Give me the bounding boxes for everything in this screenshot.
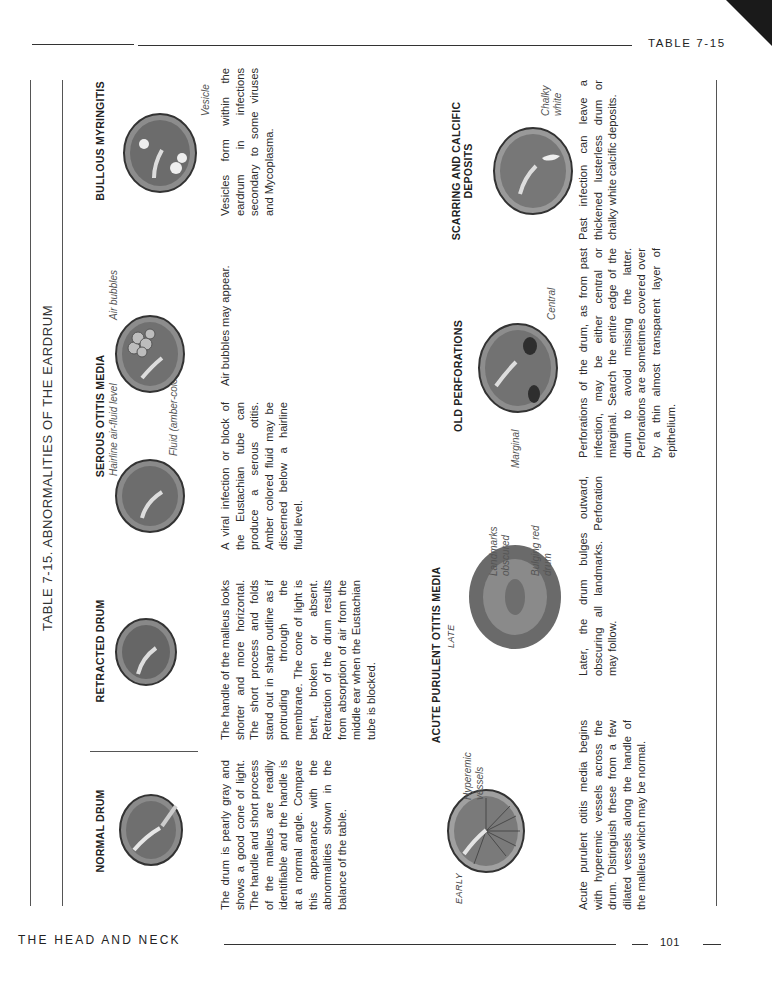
column-divider	[90, 751, 198, 752]
table-border-bottom	[716, 80, 717, 906]
stage-early: EARLY	[454, 873, 464, 904]
text-normal-drum: The drum is pearly gray and shows a good…	[218, 760, 349, 910]
table-border-top	[30, 80, 31, 906]
text-bullous-myringitis: Vesicles form within the eardrum in infe…	[218, 68, 276, 216]
text-acute-early: Acute purulent otitis media begins with …	[576, 720, 649, 910]
heading-acute-purulent-otitis-media: ACUTE PURULENT OTITIS MEDIA	[430, 550, 442, 760]
label-vesicle: Vesicle	[200, 84, 212, 116]
heading-normal-drum: NORMAL DRUM	[94, 776, 106, 886]
eardrum-illustration-retracted	[112, 616, 180, 688]
heading-serous-otitis-media: SEROUS OTITIS MEDIA	[94, 316, 106, 516]
eardrum-illustration-scarring	[490, 124, 576, 218]
label-bulging-red-drum: Bulging red drum	[530, 516, 554, 576]
text-old-perforations: Perforations of the drum, as from past i…	[576, 248, 678, 458]
label-hairline-fluid-level: Hairline air-fluid level	[108, 383, 120, 476]
eardrum-illustration-air-bubbles	[112, 312, 188, 396]
eardrum-illustration-serous-fluid	[112, 456, 188, 536]
title-rule	[62, 80, 63, 906]
label-chalky-white: Chalky white	[540, 70, 564, 116]
heading-scarring-calcific-deposits: SCARRING AND CALCIFIC DEPOSITS	[450, 86, 474, 256]
heading-retracted-drum: RETRACTED DRUM	[94, 586, 106, 716]
label-hyperemic-vessels: Hyperemic vessels	[462, 740, 486, 800]
text-serous-otitis-media: A viral infection or block of the Eustac…	[218, 402, 306, 550]
eardrum-illustration-normal	[116, 792, 186, 868]
text-air-bubbles: Air bubbles may appear.	[218, 246, 233, 386]
label-central: Central	[546, 288, 558, 320]
eardrum-table: TABLE 7-15. ABNORMALITIES OF THE EARDRUM…	[0, 0, 772, 996]
table-title: TABLE 7-15. ABNORMALITIES OF THE EARDRUM	[40, 305, 55, 631]
eardrum-illustration-perforations	[476, 320, 560, 416]
text-scarring-calcific-deposits: Past infection can leave a thickened lus…	[576, 80, 620, 240]
heading-old-perforations: OLD PERFORATIONS	[452, 296, 464, 456]
eardrum-illustration-early-acute	[444, 786, 528, 876]
label-landmarks-obscured: Landmarks obscured	[488, 516, 512, 576]
stage-late: LATE	[446, 624, 456, 648]
heading-bullous-myringitis: BULLOUS MYRINGITIS	[94, 66, 106, 216]
label-air-bubbles: Air bubbles	[108, 270, 120, 320]
label-marginal: Marginal	[510, 430, 522, 468]
text-retracted-drum: The handle of the malleus looks shorter …	[218, 580, 379, 740]
eardrum-illustration-bullous	[120, 110, 200, 196]
text-acute-late: Later, the drum bulges outward, obscurin…	[576, 476, 620, 676]
